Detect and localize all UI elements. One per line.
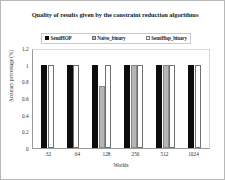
bar-semihop-binary-256 [137, 65, 143, 148]
bar-semihop-binary-64 [73, 65, 79, 148]
bar-semihop-binary-32 [48, 65, 54, 148]
bar-semihop-binary-1024 [195, 65, 201, 148]
bar-semihop-binary-128 [105, 65, 111, 148]
legend-entry-naive-binary: Naive_binary [92, 35, 126, 41]
y-axis-tick: 1.2 [22, 46, 28, 52]
chart-title: Quality of results given by the constrai… [25, 11, 205, 20]
bar-group [188, 50, 201, 148]
bar-group [41, 50, 54, 148]
chart-legend: SemiHOP Naive_binary SemiHop_binary [41, 33, 191, 44]
bar-naive-binary-256 [131, 65, 137, 148]
y-axis-tick: 0.8 [22, 79, 28, 85]
legend-swatch-icon-semihop [45, 36, 49, 40]
bar-semihop-binary-512 [169, 65, 175, 148]
bar-group [156, 50, 176, 148]
bar-group [92, 50, 112, 148]
bar-semihop-64 [67, 65, 73, 148]
y-axis-tick: 0.6 [22, 96, 28, 102]
bar-groups-container [33, 50, 209, 148]
y-axis-tick: 0.4 [22, 113, 28, 119]
x-axis-tick: 128 [96, 151, 118, 157]
chart-figure: Quality of results given by the constrai… [0, 0, 225, 180]
bar-group [67, 50, 80, 148]
bar-naive-binary-128 [99, 86, 105, 149]
bar-semihop-1024 [188, 65, 194, 148]
bar-semihop-256 [124, 65, 130, 148]
legend-entry-semihop: SemiHOP [45, 35, 72, 41]
bar-semihop-512 [156, 65, 162, 148]
x-axis-tick: 32 [38, 151, 60, 157]
plot-area [32, 49, 210, 149]
bar-semihop-32 [41, 65, 47, 148]
x-axis-tick: 1024 [183, 151, 205, 157]
legend-entry-semihop-binary: SemiHop_binary [146, 35, 187, 41]
bar-naive-binary-512 [163, 65, 169, 148]
x-axis-tick: 512 [154, 151, 176, 157]
legend-swatch-icon-naive-binary [92, 36, 96, 40]
bar-semihop-128 [92, 65, 98, 148]
y-axis-title: Accuracy percentage (%) [8, 38, 14, 114]
y-axis-tick-labels: 1.210.80.60.40.20 [14, 45, 30, 153]
x-axis-tick: 256 [125, 151, 147, 157]
y-axis-tick: 0.2 [22, 129, 28, 135]
bar-group [124, 50, 144, 148]
legend-label-semihop-binary: SemiHop_binary [151, 35, 187, 41]
legend-label-semihop: SemiHOP [51, 35, 72, 41]
legend-label-naive-binary: Naive_binary [97, 35, 125, 41]
y-axis-tick: 0 [26, 146, 29, 152]
x-axis-tick: 64 [67, 151, 89, 157]
x-axis-tick-labels: 32641282565121024 [32, 151, 210, 160]
legend-swatch-icon-semihop-binary [146, 36, 150, 40]
y-axis-tick: 1 [26, 63, 29, 69]
x-axis-title: Worlds [32, 162, 210, 168]
